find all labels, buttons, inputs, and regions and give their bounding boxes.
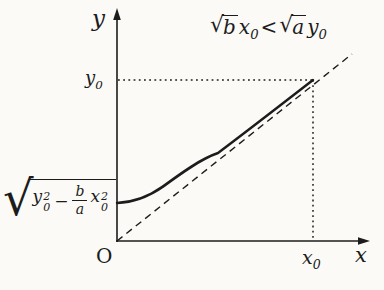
- radical-b: √b: [210, 14, 238, 39]
- radical-argument: y20 − ba x20: [30, 179, 116, 218]
- y0-tick-label: y0: [85, 67, 103, 88]
- y-intercept-label: √ y20 − ba x20: [3, 176, 116, 220]
- x0-tick-label: x0: [302, 246, 321, 268]
- y-axis-label: y: [92, 5, 105, 31]
- y0-term: y0: [307, 14, 327, 39]
- radical-a: √a: [279, 14, 306, 39]
- radical-argument: b: [222, 15, 238, 39]
- plot-canvas: [0, 0, 384, 290]
- x0-squared-term: x20: [90, 186, 108, 216]
- radical-argument: a: [291, 15, 306, 39]
- origin-label: O: [96, 244, 112, 268]
- asymptote-dashed-line: [117, 54, 352, 241]
- y-axis-arrowhead: [113, 8, 121, 20]
- x-axis-label: x: [355, 243, 367, 267]
- x0-term: x0: [239, 14, 259, 39]
- math-figure: √b x0 < √a y0 y x O y0 x0 √ y20 − ba x20: [0, 0, 384, 290]
- condition-inequality: √b x0 < √a y0: [210, 14, 327, 39]
- b-over-a-fraction: ba: [72, 184, 87, 218]
- less-than-sign: <: [259, 14, 280, 39]
- function-curve: [117, 80, 313, 203]
- minus-sign: −: [54, 191, 68, 211]
- y0-squared-term: y20: [33, 186, 51, 216]
